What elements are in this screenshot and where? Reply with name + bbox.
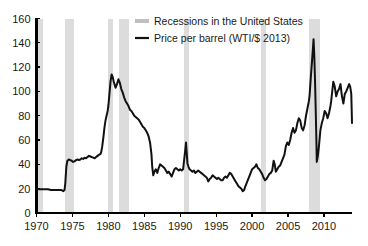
legend-label: Price per barrel (WTI/$ 2013) <box>154 32 290 44</box>
price-series-line <box>37 39 353 191</box>
chart-canvas: 020406080100120140160 197019751980198519… <box>0 0 368 246</box>
recession-band <box>184 19 189 214</box>
y-axis-tick-label: 0 <box>24 207 30 219</box>
axes-group <box>37 18 353 218</box>
x-axis-tick-label: 1975 <box>60 220 84 232</box>
y-axis-tick-label: 20 <box>18 183 30 195</box>
y-axis-tick-labels: 020406080100120140160 <box>12 13 30 220</box>
x-axis-tick-label: 1980 <box>96 220 120 232</box>
recession-band <box>119 19 129 214</box>
x-axis-tick-label: 1990 <box>168 220 192 232</box>
legend-swatch-recession <box>135 19 149 23</box>
y-axis-tick-label: 40 <box>18 158 30 170</box>
y-axis-tick-label: 100 <box>12 85 30 97</box>
y-axis-tick-label: 60 <box>18 134 30 146</box>
legend: Recessions in the United StatesPrice per… <box>135 15 303 44</box>
x-axis-tick-labels: 197019751980198519901995200020052010 <box>24 220 336 232</box>
x-axis-tick-label: 2000 <box>240 220 264 232</box>
oil-price-chart: 020406080100120140160 197019751980198519… <box>0 0 368 246</box>
recession-bands-group <box>37 19 320 214</box>
y-axis-tick-label: 140 <box>12 37 30 49</box>
recession-band <box>108 19 112 214</box>
y-axis-tick-label: 120 <box>12 61 30 73</box>
x-axis-tick-label: 1995 <box>204 220 228 232</box>
price-series-group <box>37 39 353 191</box>
recession-band <box>261 19 266 214</box>
axis-lines <box>37 18 353 214</box>
legend-label: Recessions in the United States <box>154 15 303 27</box>
x-axis-tick-label: 2005 <box>276 220 300 232</box>
x-axis-tick-label: 1970 <box>24 220 48 232</box>
x-axis-tick-label: 1985 <box>132 220 156 232</box>
y-axis-tick-label: 80 <box>18 110 30 122</box>
y-axis-tick-label: 160 <box>12 13 30 25</box>
x-axis-tick-label: 2010 <box>312 220 336 232</box>
